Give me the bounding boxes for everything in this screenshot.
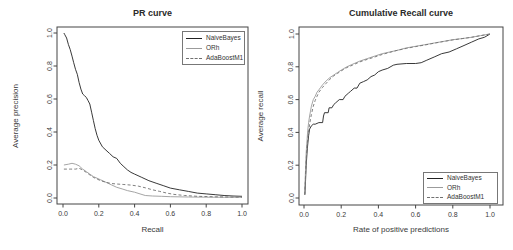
figure-canvas: PR curve Average precision 0.00.20.40.60… <box>0 0 513 250</box>
cumulative-recall-plot-area: 0.00.20.40.60.81.00.00.20.40.60.81.0 <box>256 0 513 250</box>
legend-entry-naivebayes: NaiveBayes <box>186 35 241 42</box>
naivebayes-line-sample <box>186 38 202 39</box>
adaboostm1-curve <box>64 168 242 197</box>
legend-label-orh: ORh <box>206 45 219 52</box>
legend-label-naivebayes: NaiveBayes <box>447 175 482 182</box>
x-tick-label: 1.0 <box>237 210 247 217</box>
adaboostm1-curve <box>305 34 490 195</box>
legend-label-adaboostm1: AdaBoostM1 <box>206 55 243 62</box>
x-tick-label: 0.4 <box>374 211 384 218</box>
y-tick-label: 0.4 <box>46 127 53 137</box>
y-tick-label: 0.8 <box>288 62 295 72</box>
x-tick-label: 0.6 <box>166 210 176 217</box>
legend-label-adaboostm1: AdaBoostM1 <box>447 194 484 201</box>
y-tick-label: 1.0 <box>288 29 295 39</box>
x-tick-label: 0.2 <box>336 211 346 218</box>
pr-curve-panel: PR curve Average precision 0.00.20.40.60… <box>0 0 256 250</box>
orh-line-sample <box>186 48 202 49</box>
legend-entry-orh: ORh <box>427 185 494 192</box>
adaboostm1-line-sample <box>427 197 443 198</box>
cumulative-recall-legend: NaiveBayes ORh AdaBoostM1 <box>423 172 498 204</box>
naivebayes-line-sample <box>427 178 443 179</box>
x-tick-label: 1.0 <box>485 211 495 218</box>
y-tick-label: 0.6 <box>288 95 295 105</box>
orh-curve <box>305 34 490 195</box>
x-tick-label: 0.2 <box>94 210 104 217</box>
legend-entry-orh: ORh <box>186 45 241 52</box>
legend-label-orh: ORh <box>447 185 460 192</box>
pr-x-axis-label: Recall <box>57 225 248 234</box>
legend-entry-adaboostm1: AdaBoostM1 <box>186 55 241 62</box>
naivebayes-curve <box>305 34 490 195</box>
legend-entry-adaboostm1: AdaBoostM1 <box>427 194 494 201</box>
pr-legend: NaiveBayes ORh AdaBoostM1 <box>182 31 245 65</box>
y-tick-label: 0.6 <box>46 94 53 104</box>
orh-curve <box>64 163 242 197</box>
y-tick-label: 0.2 <box>46 160 53 170</box>
adaboostm1-line-sample <box>186 58 202 59</box>
y-tick-label: 0.0 <box>288 193 295 203</box>
y-tick-label: 0.4 <box>288 127 295 137</box>
legend-entry-naivebayes: NaiveBayes <box>427 175 494 182</box>
y-tick-label: 0.0 <box>46 193 53 203</box>
x-tick-label: 0.4 <box>130 210 140 217</box>
x-tick-label: 0.8 <box>448 211 458 218</box>
y-tick-label: 0.8 <box>46 61 53 71</box>
cumulative-recall-x-axis-label: Rate of positive predictions <box>299 225 503 234</box>
y-tick-label: 0.2 <box>288 160 295 170</box>
x-tick-label: 0.8 <box>201 210 211 217</box>
cumulative-recall-curve-panel: Cumulative Recall curve Average recall 0… <box>256 0 513 250</box>
orh-line-sample <box>427 187 443 188</box>
y-tick-label: 1.0 <box>46 28 53 38</box>
x-tick-label: 0.0 <box>299 211 309 218</box>
x-tick-label: 0.0 <box>58 210 68 217</box>
x-tick-label: 0.6 <box>411 211 421 218</box>
legend-label-naivebayes: NaiveBayes <box>206 35 241 42</box>
